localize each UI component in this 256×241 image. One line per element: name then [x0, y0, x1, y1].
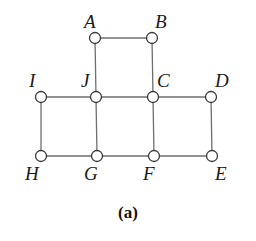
vertex-label-e: E [215, 164, 227, 183]
graph-node-b[interactable] [147, 33, 158, 44]
graph-node-j[interactable] [91, 92, 102, 103]
graph-node-f[interactable] [149, 151, 160, 162]
figure-caption: (a) [0, 203, 256, 223]
graph-node-g[interactable] [92, 151, 103, 162]
vertex-label-d: D [215, 71, 229, 90]
figure-container: ABIJCDHGFE (a) [0, 0, 256, 241]
graph-node-d[interactable] [206, 92, 217, 103]
graph-node-i[interactable] [36, 92, 47, 103]
graph-node-c[interactable] [148, 92, 159, 103]
graph-node-a[interactable] [90, 33, 101, 44]
vertex-label-g: G [84, 164, 98, 183]
vertex-label-c: C [157, 71, 170, 90]
vertex-label-b: B [155, 12, 167, 31]
graph-node-h[interactable] [36, 151, 47, 162]
vertex-label-f: F [143, 164, 155, 183]
graph-edge-j-g [96, 97, 97, 156]
graph-edge-c-f [153, 97, 154, 156]
vertex-label-i: I [29, 71, 35, 90]
graph-edge-a-j [95, 38, 96, 97]
graph-edge-d-e [211, 97, 212, 156]
vertex-label-a: A [84, 12, 96, 31]
graph-edge-b-c [152, 38, 153, 97]
edge-layer [41, 38, 212, 156]
graph-node-e[interactable] [207, 151, 218, 162]
vertex-label-j: J [81, 71, 89, 90]
vertex-label-h: H [25, 164, 39, 183]
